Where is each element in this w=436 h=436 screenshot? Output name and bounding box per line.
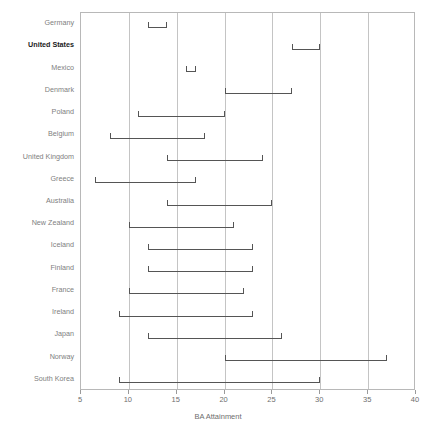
category-label-poland: Poland [0, 108, 74, 116]
x-tick-label: 35 [363, 395, 371, 404]
range-cap-low [148, 244, 149, 249]
range-cap-high [243, 288, 244, 293]
range-bar-belgium [110, 138, 206, 139]
range-bar-greece [95, 182, 196, 183]
range-cap-high [319, 44, 320, 49]
range-bar-new-zealand [129, 227, 234, 228]
range-bar-france [129, 293, 244, 294]
range-cap-high [252, 311, 253, 316]
x-tick-label: 40 [411, 395, 419, 404]
range-bar-iceland [148, 249, 253, 250]
x-tick-label: 15 [172, 395, 180, 404]
range-cap-low [167, 155, 168, 160]
x-tick-mark [176, 390, 177, 394]
x-axis-title: BA Attainment [0, 412, 436, 421]
x-tick-mark [367, 390, 368, 394]
range-cap-low [186, 66, 187, 71]
gridline [272, 13, 273, 389]
category-label-norway: Norway [0, 353, 74, 361]
x-tick-label: 5 [78, 395, 82, 404]
x-tick-mark [224, 390, 225, 394]
x-tick-mark [319, 390, 320, 394]
range-bar-united-states [292, 49, 321, 50]
category-label-mexico: Mexico [0, 64, 74, 72]
x-tick-mark [80, 390, 81, 394]
range-cap-high [204, 133, 205, 138]
x-tick-mark [128, 390, 129, 394]
range-bar-australia [167, 205, 272, 206]
range-cap-low [95, 177, 96, 182]
category-label-australia: Australia [0, 197, 74, 205]
range-cap-high [252, 266, 253, 271]
category-label-ireland: Ireland [0, 308, 74, 316]
range-bar-japan [148, 338, 282, 339]
range-cap-high [281, 333, 282, 338]
range-bar-mexico [186, 71, 196, 72]
range-bar-ireland [119, 316, 253, 317]
range-cap-high [195, 177, 196, 182]
category-label-new-zealand: New Zealand [0, 219, 74, 227]
category-axis: GermanyUnited StatesMexicoDenmarkPolandB… [0, 12, 78, 390]
x-axis-ticks: 510152025303540 [80, 390, 415, 406]
x-tick-mark [415, 390, 416, 394]
x-tick-label: 10 [124, 395, 132, 404]
gridline [368, 13, 369, 389]
x-tick-label: 30 [315, 395, 323, 404]
plot-area [80, 12, 415, 390]
range-cap-low [129, 222, 130, 227]
range-cap-high [195, 66, 196, 71]
range-cap-low [119, 377, 120, 382]
range-cap-low [225, 88, 226, 93]
category-label-germany: Germany [0, 19, 74, 27]
category-label-japan: Japan [0, 330, 74, 338]
x-tick-label: 20 [219, 395, 227, 404]
range-cap-low [225, 355, 226, 360]
range-cap-low [148, 333, 149, 338]
range-cap-high [262, 155, 263, 160]
range-bar-united-kingdom [167, 160, 263, 161]
range-bar-norway [225, 360, 388, 361]
range-cap-high [271, 200, 272, 205]
range-cap-low [148, 266, 149, 271]
range-cap-low [110, 133, 111, 138]
ba-attainment-range-chart: GermanyUnited StatesMexicoDenmarkPolandB… [0, 0, 436, 436]
range-bar-poland [138, 116, 224, 117]
range-cap-high [319, 377, 320, 382]
gridline [225, 13, 226, 389]
range-cap-low [148, 22, 149, 27]
x-tick-label: 25 [267, 395, 275, 404]
range-cap-high [291, 88, 292, 93]
range-cap-low [292, 44, 293, 49]
range-cap-low [129, 288, 130, 293]
category-label-denmark: Denmark [0, 86, 74, 94]
range-cap-high [252, 244, 253, 249]
category-label-greece: Greece [0, 175, 74, 183]
category-label-united-kingdom: United Kingdom [0, 153, 74, 161]
gridline [129, 13, 130, 389]
range-cap-high [224, 111, 225, 116]
range-bar-finland [148, 271, 253, 272]
range-cap-low [167, 200, 168, 205]
category-label-finland: Finland [0, 264, 74, 272]
category-label-belgium: Belgium [0, 130, 74, 138]
category-label-france: France [0, 286, 74, 294]
category-label-iceland: Iceland [0, 241, 74, 249]
range-cap-low [138, 111, 139, 116]
gridline [177, 13, 178, 389]
gridline [320, 13, 321, 389]
x-tick-mark [271, 390, 272, 394]
range-cap-high [386, 355, 387, 360]
range-bar-denmark [225, 93, 292, 94]
range-cap-low [119, 311, 120, 316]
range-bar-south-korea [119, 382, 320, 383]
range-cap-high [233, 222, 234, 227]
category-label-united-states: United States [0, 41, 74, 49]
category-label-south-korea: South Korea [0, 375, 74, 383]
range-bar-germany [148, 27, 167, 28]
range-cap-high [166, 22, 167, 27]
